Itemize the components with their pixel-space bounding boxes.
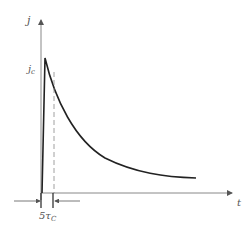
y-axis-label: j	[24, 14, 31, 27]
current-curve	[42, 58, 196, 193]
interval-label: 5τC	[39, 210, 57, 223]
peak-label: jc	[26, 63, 35, 76]
x-axis-label: t	[237, 197, 242, 208]
current-decay-diagram: j t jc 5τC	[0, 0, 252, 233]
